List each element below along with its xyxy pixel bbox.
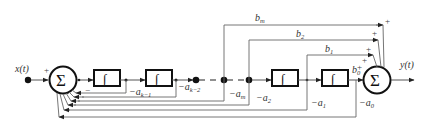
minus-sign: − (85, 85, 90, 95)
gain-a-k-1: −ak−1 (129, 86, 151, 98)
input-plus-sign: + (44, 65, 49, 75)
junction-dot (193, 77, 200, 84)
input-node: x(t) + (14, 63, 49, 83)
sigma-icon: Σ (370, 71, 380, 90)
gain-b2: b2 (296, 28, 305, 40)
plus-sign: + (366, 44, 371, 54)
gain-a0: −a0 (359, 97, 375, 109)
output-summer: Σ (364, 67, 391, 94)
block-diagram: x(t) + Σ ∫ ∫ ∫ ∫ Σ y(t) (0, 0, 432, 126)
gain-bm: bm (255, 12, 265, 24)
input-label: x(t) (14, 63, 30, 75)
gain-am: −am (229, 88, 246, 100)
output-label: y(t) (399, 59, 415, 71)
integrator-3: ∫ (272, 70, 298, 87)
integrator-1: ∫ (94, 70, 120, 87)
gain-b1: b1 (325, 43, 333, 55)
gain-a1: −a1 (311, 97, 326, 109)
plus-sign: + (362, 55, 367, 65)
gain-a2: −a2 (256, 92, 272, 104)
input-summer: Σ (50, 67, 77, 94)
plus-sign: + (385, 16, 390, 26)
plus-sign: + (372, 28, 377, 38)
integrator-4: ∫ (322, 70, 348, 87)
sigma-icon: Σ (56, 71, 66, 90)
integrator-2: ∫ (146, 70, 172, 87)
